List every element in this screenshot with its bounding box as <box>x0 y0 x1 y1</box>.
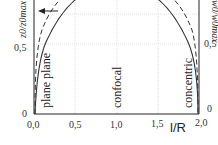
x-tick-10: 1,0 <box>110 119 123 130</box>
resonator-stability-chart: plane plane confocal concentric z0/z0max… <box>0 0 218 145</box>
x-tick-05: 0,5 <box>69 119 82 130</box>
arrow-left-icon <box>38 8 58 14</box>
y-tick-left-05: 0,5 <box>14 42 27 53</box>
right-y-axis-label: w0/w0max <box>210 0 218 43</box>
y-tick-left-0: 0 <box>22 108 27 119</box>
left-y-axis-label: z0/z0max <box>17 0 28 39</box>
x-tick-00: 0,0 <box>27 119 40 130</box>
x-tick-15: 1,5 <box>151 118 164 129</box>
concentric-label: concentric <box>181 58 195 108</box>
y-tick-right-0: 0 <box>207 103 212 114</box>
plane-plane-label: plane plane <box>39 53 53 108</box>
x-tick-20: 2,0 <box>195 117 208 128</box>
y-tick-right-05: 0,5 <box>204 38 217 49</box>
confocal-label: confocal <box>110 66 124 108</box>
x-axis-label: l/R <box>170 120 186 135</box>
